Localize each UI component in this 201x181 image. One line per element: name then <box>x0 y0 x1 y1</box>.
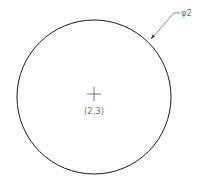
diameter-leader <box>151 13 180 39</box>
drawing-canvas: (2,3) φ2 <box>0 0 201 181</box>
diameter-label: φ2 <box>181 8 192 18</box>
center-mark-icon <box>87 87 101 101</box>
center-coordinate-label: (2,3) <box>84 106 104 116</box>
